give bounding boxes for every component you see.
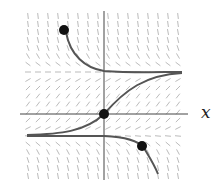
- upper-solution-curve: [66, 32, 182, 72]
- slope-field-diagram: [0, 0, 219, 183]
- upper-left-point: [59, 25, 69, 35]
- lower-right-point: [137, 141, 147, 151]
- x-axis-label: x: [201, 102, 211, 122]
- slope-field-segments: [25, 13, 181, 179]
- origin-point: [99, 109, 109, 119]
